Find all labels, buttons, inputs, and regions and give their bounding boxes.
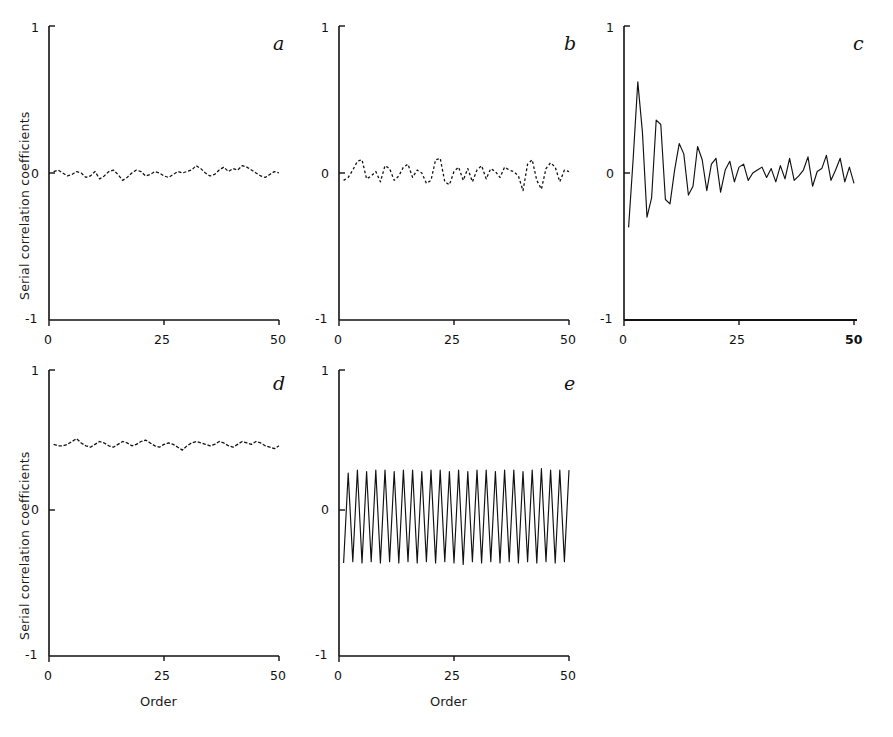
panel-a: a 1 0 -1 0 25 50	[30, 18, 310, 363]
panel-a-xtick-50: 50	[270, 332, 286, 347]
panel-b-ytick-bot: -1	[315, 311, 327, 326]
panel-b-xtick-25: 25	[444, 332, 460, 347]
panel-a-ytick-bot: -1	[25, 311, 37, 326]
panel-d-xtick-0: 0	[44, 668, 52, 683]
panel-b-letter: b	[564, 32, 576, 54]
panel-e-xtick-50: 50	[560, 668, 576, 683]
panel-d-axes	[49, 370, 279, 662]
panel-c-axes	[624, 26, 857, 326]
panel-e-ytick-bot: -1	[315, 647, 327, 662]
panel-a-xtick-25: 25	[154, 332, 170, 347]
panel-a-letter: a	[273, 32, 284, 54]
panel-d-ytick-top: 1	[31, 363, 39, 378]
panel-c-ytick-top: 1	[606, 20, 614, 35]
panel-e-xtick-0: 0	[334, 668, 342, 683]
panel-b-ytick-top: 1	[321, 20, 329, 35]
panel-d-ytick-bot: -1	[25, 647, 37, 662]
panel-d: d 1 0 -1 0 25 50 Order	[30, 360, 310, 735]
panel-c-series	[629, 82, 854, 228]
panel-d-xtick-50: 50	[270, 668, 286, 683]
panel-b-xtick-50: 50	[560, 332, 576, 347]
panel-e-xtick-25: 25	[444, 668, 460, 683]
panel-c-xtick-25: 25	[729, 332, 745, 347]
panel-d-plot	[30, 360, 310, 676]
panel-a-plot	[30, 18, 310, 338]
panel-e-ytick-mid: 0	[321, 502, 329, 517]
panel-c-letter: c	[853, 32, 864, 54]
panel-a-ytick-mid: 0	[31, 166, 39, 181]
panel-b-plot	[320, 18, 600, 338]
panel-c-ytick-mid: 0	[606, 166, 614, 181]
panel-c-xtick-50: 50	[845, 332, 862, 347]
panel-e: e 1 0 -1 0 25 50 Order	[320, 360, 600, 735]
panel-b-ytick-mid: 0	[321, 166, 329, 181]
panel-a-series	[54, 166, 279, 181]
panel-a-ytick-top: 1	[31, 20, 39, 35]
panel-b: b 1 0 -1 0 25 50	[320, 18, 600, 363]
panel-c-ytick-bot: -1	[600, 311, 612, 326]
panel-d-xaxis-label: Order	[140, 694, 177, 709]
panel-c-xtick-0: 0	[619, 332, 627, 347]
figure-correlograms: Serial correlation coefficients a 1 0 -1…	[0, 0, 893, 737]
panel-a-xtick-0: 0	[44, 332, 52, 347]
panel-d-ytick-mid: 0	[31, 502, 39, 517]
panel-e-xaxis-label: Order	[430, 694, 467, 709]
panel-d-letter: d	[273, 372, 285, 394]
panel-c: c 1 0 -1 0 25 50	[605, 18, 890, 363]
panel-e-letter: e	[564, 372, 575, 394]
panel-d-xtick-25: 25	[154, 668, 170, 683]
panel-e-ytick-top: 1	[321, 363, 329, 378]
panel-b-series	[344, 158, 569, 190]
panel-b-xtick-0: 0	[334, 332, 342, 347]
panel-d-series	[54, 439, 279, 450]
panel-e-series	[344, 469, 569, 565]
panel-c-plot	[605, 18, 890, 338]
panel-a-axes	[49, 26, 279, 326]
panel-e-plot	[320, 360, 600, 676]
panel-b-axes	[339, 26, 569, 326]
